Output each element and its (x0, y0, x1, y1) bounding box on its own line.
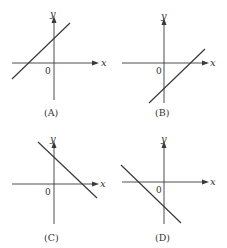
graph-line (121, 165, 181, 223)
x-axis-label: x (210, 176, 216, 187)
panel-label: (A) (44, 107, 58, 118)
x-axis-arrow-icon (92, 61, 99, 66)
panel-label: (C) (44, 232, 59, 243)
panel-c: x y 0 (C) (12, 133, 106, 243)
origin-label: 0 (45, 187, 51, 197)
graph-line (12, 23, 70, 79)
x-axis-label: x (100, 178, 106, 189)
origin-label: 0 (156, 66, 162, 76)
x-axis-label: x (101, 57, 107, 68)
panel-a: x y 0 (A) (12, 8, 107, 118)
y-axis-label: y (49, 133, 56, 144)
linear-graph-options-diagram: x y 0 (A) x y 0 (B) x y 0 (C) x y 0 (0, 0, 227, 248)
y-axis-label: y (160, 133, 167, 144)
origin-label: 0 (45, 66, 51, 76)
y-axis-label: y (160, 10, 167, 21)
y-axis-label: y (49, 8, 56, 19)
graph-line (149, 49, 205, 103)
panel-label: (B) (155, 107, 169, 118)
x-axis-arrow-icon (92, 182, 99, 187)
x-axis-arrow-icon (202, 180, 209, 185)
panel-d: x y 0 (D) (121, 133, 216, 243)
x-axis-arrow-icon (202, 61, 209, 66)
origin-label: 0 (156, 185, 162, 195)
panel-label: (D) (155, 232, 170, 243)
x-axis-label: x (210, 57, 216, 68)
panel-b: x y 0 (B) (122, 10, 216, 118)
